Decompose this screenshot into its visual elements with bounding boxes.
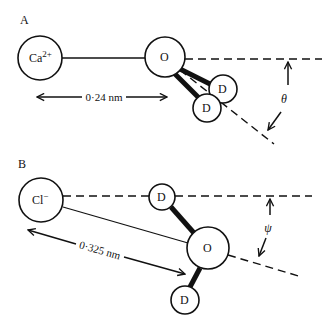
oxygen-label-a: O — [160, 50, 169, 64]
dipole-axis-line-b — [228, 255, 302, 277]
deuterium-label-a2: D — [202, 101, 211, 115]
distance-label-b: 0·325 nm — [78, 238, 123, 261]
o-d-bond-b2 — [190, 268, 200, 287]
psi-label: ψ — [264, 221, 272, 235]
deuterium-label-b1: D — [157, 190, 166, 204]
distance-arrow-b-right — [124, 257, 185, 274]
panel-a-label: A — [20, 13, 29, 27]
deuterium-label-a1: D — [218, 82, 227, 96]
angle-arrow-a-down — [268, 112, 281, 130]
oxygen-label-b: O — [203, 241, 212, 255]
angle-arrow-b-down — [259, 238, 266, 256]
deuterium-label-b2: D — [180, 293, 189, 307]
distance-arrow-b-left — [28, 230, 76, 244]
panel-a: A Ca2+ O D D 0·24 nm θ — [18, 13, 322, 144]
hydration-geometry-diagram: A Ca2+ O D D 0·24 nm θ B — [0, 0, 332, 333]
distance-label-a: 0·24 nm — [86, 91, 123, 103]
theta-label: θ — [281, 92, 287, 106]
panel-b: B Cl− D O D 0·325 nm ψ — [18, 157, 312, 314]
o-d-bond-b1 — [171, 207, 194, 233]
panel-b-label: B — [18, 157, 26, 171]
